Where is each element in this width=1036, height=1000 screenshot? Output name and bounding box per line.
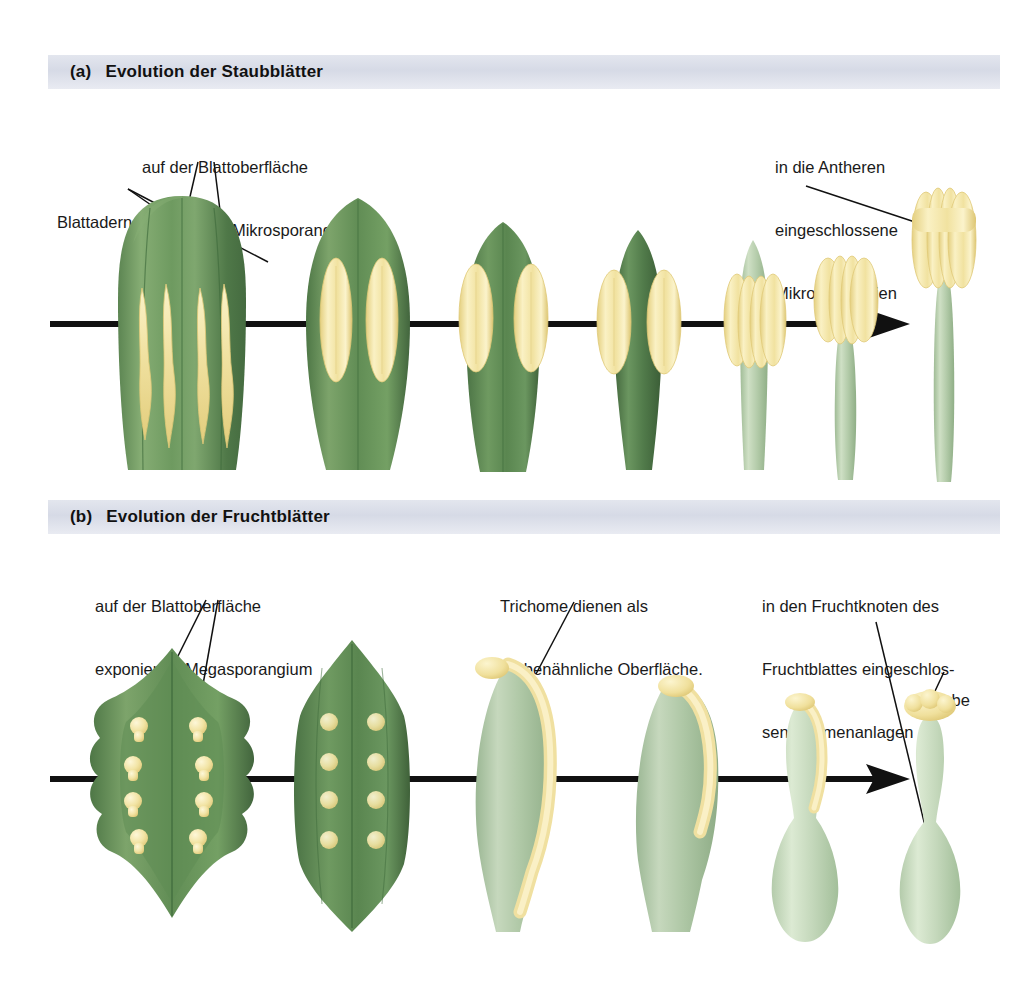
label-eingeschlossene-mikrosporangien: in die Antheren eingeschlossene Mikrospo…: [775, 115, 898, 346]
ovule-group-left: [124, 717, 148, 854]
label-narbe-line-1: Narbe: [925, 690, 970, 711]
panel-b-title: Evolution der Fruchtblätter: [92, 507, 330, 527]
panel-a-stage-4: [597, 230, 681, 470]
label-trichome-line-1: Trichome dienen als: [500, 596, 703, 617]
panel-b-header-bar: (b) Evolution der Fruchtblätter: [48, 500, 1000, 534]
panel-a-header-bar: (a) Evolution der Staubblätter: [48, 55, 1000, 89]
label-eingeschlossene-mikrosporangien-line-3: Mikrosporangien: [775, 283, 898, 304]
label-exponiertes-megasporangium-line-1: auf der Blattoberfläche: [95, 596, 312, 617]
ovule-group-right: [189, 717, 213, 854]
label-eingeschlossene-mikrosporangien-line-2: eingeschlossene: [775, 220, 898, 241]
label-eingeschlossene-samenanlagen-line-1: in den Fruchtknoten des: [762, 596, 955, 617]
label-trichome-line-2: narbenähnliche Oberfläche.: [500, 659, 703, 680]
label-exponiertes-megasporangium: auf der Blattoberfläche exponiertes Mega…: [95, 554, 312, 722]
label-narbe: Narbe: [925, 648, 970, 753]
label-blattadern-line-1: Blattadern: [57, 212, 132, 233]
label-eingeschlossene-mikrosporangien-line-1: in die Antheren: [775, 157, 898, 178]
ovule-group-left: [320, 713, 338, 849]
label-exponiertes-mikrosporangium-line-1: auf der Blattoberfläche: [142, 157, 358, 178]
panel-a-stage-3: [459, 222, 548, 472]
label-exponiertes-megasporangium-line-2: exponiertes Megasporangium: [95, 659, 312, 680]
label-exponiertes-mikrosporangium-line-2: exponiertes Mikrosporangium: [142, 220, 358, 241]
label-blattadern: Blattadern: [57, 170, 132, 275]
panel-a-stage-7-mature-stamen: [912, 188, 976, 482]
panel-b-letter: (b): [48, 507, 92, 527]
panel-a-letter: (a): [48, 62, 91, 82]
ovule-group-right: [367, 713, 385, 849]
label-exponiertes-mikrosporangium: auf der Blattoberfläche exponiertes Mikr…: [142, 115, 358, 283]
label-trichome: Trichome dienen als narbenähnliche Oberf…: [500, 554, 703, 722]
figure-canvas: (a) Evolution der Staubblätter (b) Evolu…: [0, 0, 1036, 1000]
panel-a-title: Evolution der Staubblätter: [91, 62, 323, 82]
